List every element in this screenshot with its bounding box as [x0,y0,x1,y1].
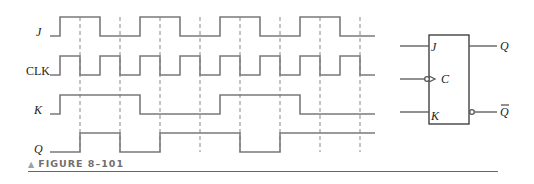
waveform-q [50,133,375,152]
signal-label-clk: CLK [26,64,50,78]
waveform-k [50,95,375,114]
waveform-j [50,17,375,36]
signal-label-j: J [36,25,42,39]
signal-label-k: K [33,103,43,117]
waveforms [50,17,375,152]
jk-flip-flop-symbol [400,35,509,124]
ff-output-qbar: Q [500,105,509,119]
ff-output-q: Q [500,39,509,53]
waveform-clk [50,56,375,75]
clock-edge-dashed-lines [80,17,360,152]
ff-input-k: K [430,109,440,123]
timing-diagram: J CLK K Q J C K Q Q [0,0,534,184]
caption-rule [28,171,498,172]
triangle-marker-icon: ▲ [28,160,35,169]
figure-caption: ▲FIGURE 8–101 [28,158,124,169]
ff-input-c: C [441,72,450,86]
figure-caption-text: FIGURE 8–101 [38,158,124,169]
ff-input-j: J [431,40,437,54]
signal-label-q: Q [34,142,43,156]
